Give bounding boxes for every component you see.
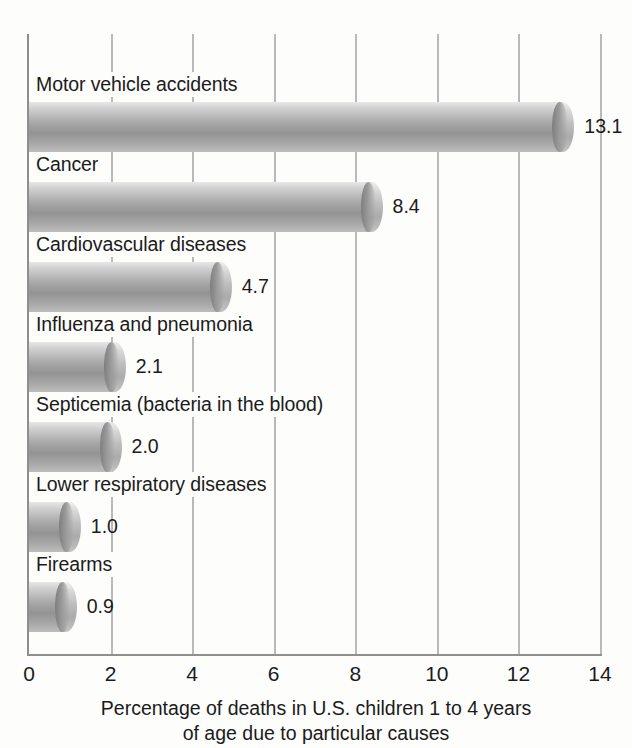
bar [29,582,77,632]
x-tick-label-14: 14 [588,662,611,686]
category-label: Septicemia (bacteria in the blood) [33,392,328,417]
x-axis-title-line-1: Percentage of deaths in U.S. children 1 … [0,696,632,721]
x-tick-label-6: 6 [268,662,280,686]
bar-value-label: 1.0 [91,515,118,538]
category-label: Lower respiratory diseases [33,472,271,497]
x-axis-title: Percentage of deaths in U.S. children 1 … [0,696,632,746]
category-label: Motor vehicle accidents [33,72,242,97]
bar-value-label: 2.0 [132,435,159,458]
category-label: Influenza and pneumonia [33,312,258,337]
bar [29,262,232,312]
bar [29,182,383,232]
bar-value-label: 4.7 [242,275,269,298]
bar-chart: Motor vehicle accidents13.1Cancer8.4Card… [0,0,632,748]
x-tick-label-10: 10 [425,662,448,686]
bar-body [29,262,221,312]
bar-cap-shadow [59,502,74,552]
bar [29,502,81,552]
bar-body [29,182,372,232]
bar-cap-shadow [210,262,225,312]
bar-cap-shadow [361,182,376,232]
plot-area: Motor vehicle accidents13.1Cancer8.4Card… [29,34,600,654]
bar-value-label: 2.1 [136,355,163,378]
x-tick-label-0: 0 [23,662,35,686]
bar-value-label: 8.4 [393,195,420,218]
x-tick-label-2: 2 [105,662,117,686]
bar-cap-shadow [104,342,119,392]
x-tick-label-8: 8 [349,662,361,686]
x-tick-label-12: 12 [507,662,530,686]
bar [29,102,574,152]
bar-body [29,422,111,472]
bar-body [29,342,115,392]
bar [29,342,126,392]
x-axis-line [27,654,602,656]
bar [29,422,122,472]
bar-cap-shadow [552,102,567,152]
bar-value-label: 13.1 [584,115,622,138]
bar-value-label: 0.9 [87,595,114,618]
category-label: Cardiovascular diseases [33,232,251,257]
x-axis-title-line-2: of age due to particular causes [0,721,632,746]
category-label: Cancer [33,152,103,177]
bar-cap-shadow [55,582,70,632]
bar-cap-shadow [100,422,115,472]
category-label: Firearms [33,552,117,577]
x-tick-label-4: 4 [186,662,198,686]
bar-body [29,102,563,152]
